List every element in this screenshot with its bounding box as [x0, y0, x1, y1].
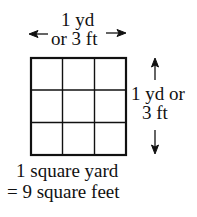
top-label-line1: 1 yd [61, 10, 94, 29]
down-arrow-icon [152, 130, 159, 154]
square-yard-grid [31, 58, 126, 155]
right-arrow-icon [106, 30, 126, 37]
side-label-line2: 3 ft [142, 103, 168, 122]
up-arrow-icon [152, 58, 159, 80]
top-label-line2: or 3 ft [51, 29, 97, 48]
caption-line1: 1 square yard [16, 161, 118, 180]
caption-line2: = 9 square feet [7, 182, 120, 201]
side-label-line1: 1 yd or [131, 84, 185, 103]
left-arrow-icon [29, 31, 48, 38]
